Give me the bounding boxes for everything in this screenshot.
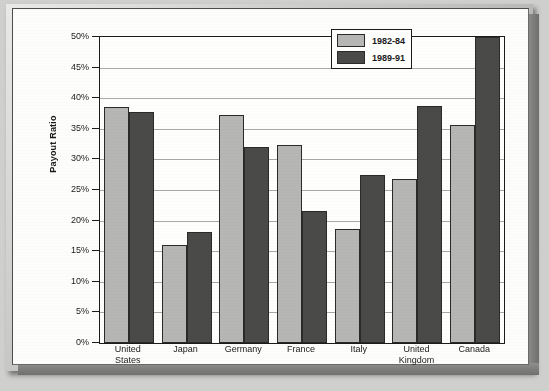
y-axis-tick-label: 20% (71, 215, 89, 225)
x-axis-tick-label: Japan (157, 344, 215, 366)
y-axis-tick-mark (92, 342, 99, 343)
bar-group (331, 37, 389, 343)
bar (277, 145, 302, 343)
chart-frame-inner: Payout Ratio 50%45%40%35%30%25%20%15%10%… (12, 8, 529, 365)
x-axis-tick-label: Italy (330, 344, 388, 366)
y-axis-tick-label: 30% (71, 153, 89, 163)
y-axis-tick-mark (92, 97, 99, 98)
x-axis-tick-label: UnitedStates (99, 344, 157, 366)
bar (302, 211, 327, 343)
bar-group (446, 37, 504, 343)
bar (392, 179, 417, 343)
bar-group (100, 37, 158, 343)
y-axis-tick-label: 25% (71, 184, 89, 194)
chart-paper: Payout Ratio 50%45%40%35%30%25%20%15%10%… (13, 9, 528, 364)
x-axis-tick-label: UnitedKingdom (388, 344, 446, 366)
bar (162, 245, 187, 343)
bar (219, 115, 244, 343)
y-axis-tick-label: 15% (71, 245, 89, 255)
bar (475, 37, 500, 343)
x-axis-tick-label: Germany (214, 344, 272, 366)
bar (335, 229, 360, 343)
bar-groups (100, 37, 504, 343)
bar-chart: Payout Ratio 50%45%40%35%30%25%20%15%10%… (27, 21, 527, 362)
scanned-page: Payout Ratio 50%45%40%35%30%25%20%15%10%… (0, 0, 549, 391)
y-axis-tick-mark (92, 311, 99, 312)
y-axis-tick-label: 5% (76, 306, 89, 316)
dark-gray-swatch-icon (337, 51, 365, 64)
chart-frame-outer: Payout Ratio 50%45%40%35%30%25%20%15%10%… (6, 4, 533, 371)
chart-legend: 1982-84 1989-91 (331, 29, 412, 69)
bar-group (273, 37, 331, 343)
x-axis-tick-label: Canada (445, 344, 503, 366)
y-axis-tick-label: 50% (71, 31, 89, 41)
y-axis-tick-mark (92, 281, 99, 282)
y-axis-tick-mark (92, 128, 99, 129)
legend-item: 1989-91 (337, 51, 405, 64)
y-axis-tick-mark (92, 36, 99, 37)
y-axis-tick-mark (92, 189, 99, 190)
y-axis-ticks: 50%45%40%35%30%25%20%15%10%5%0% (27, 36, 99, 342)
y-axis-tick-label: 35% (71, 123, 89, 133)
legend-item: 1982-84 (337, 34, 405, 47)
y-axis-tick-label: 40% (71, 92, 89, 102)
legend-label: 1989-91 (372, 53, 405, 63)
plot-area (99, 36, 505, 344)
bar (187, 232, 212, 343)
bar (417, 106, 442, 343)
bar (129, 112, 154, 343)
y-axis-tick-mark (92, 220, 99, 221)
bar (360, 175, 385, 343)
y-axis-tick-mark (92, 158, 99, 159)
bar-group (389, 37, 447, 343)
legend-label: 1982-84 (372, 36, 405, 46)
x-axis-tick-label: France (272, 344, 330, 366)
bar (104, 107, 129, 343)
y-axis-tick-mark (92, 250, 99, 251)
y-axis-tick-mark (92, 67, 99, 68)
bar-group (158, 37, 216, 343)
bar-group (215, 37, 273, 343)
y-axis-tick-label: 45% (71, 62, 89, 72)
y-axis-tick-label: 0% (76, 337, 89, 347)
light-gray-swatch-icon (337, 34, 365, 47)
bar (450, 125, 475, 343)
y-axis-tick-label: 10% (71, 276, 89, 286)
x-axis-labels: UnitedStatesJapanGermanyFranceItalyUnite… (99, 344, 503, 366)
bar (244, 147, 269, 343)
